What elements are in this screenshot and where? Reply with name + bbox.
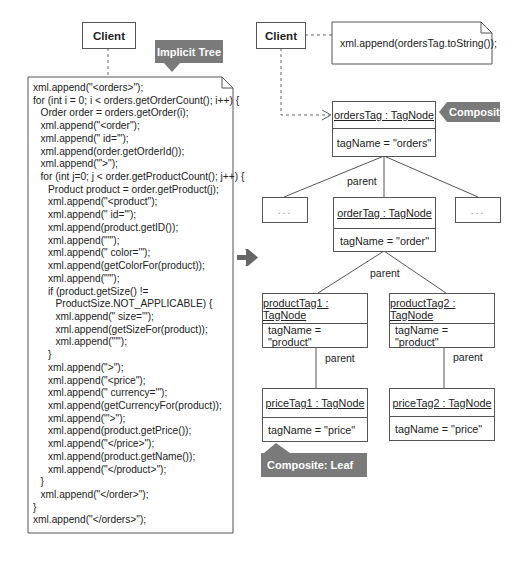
code-line: xml.append(product.getID()); — [48, 222, 178, 235]
node-name: priceTag2 : TagNode — [393, 397, 492, 409]
node-name: productTag1 : TagNode — [263, 297, 367, 321]
composite-leaf-callout: Composite: Leaf — [261, 453, 367, 477]
edge-label-parent: parent — [347, 175, 377, 187]
code-line: } — [33, 502, 36, 515]
code-line: xml.append(">"); — [48, 362, 123, 375]
node-attr: tagName = "product" — [263, 324, 367, 348]
ellipsis-text: ... — [471, 205, 485, 216]
code-line: Product product = order.getProduct(j); — [48, 184, 219, 197]
edge-label-parent: parent — [370, 267, 400, 279]
code-line: ProductSize.NOT_APPLICABLE) { — [56, 298, 213, 311]
code-line: for (int j=0; j < order.getProductCount(… — [41, 171, 245, 184]
code-line: xml.append(product.getName()); — [48, 451, 195, 464]
code-line: Order order = orders.getOrder(i); — [41, 107, 189, 120]
edge-label-parent: parent — [325, 352, 355, 364]
sibling-placeholder-left: ... — [262, 197, 308, 223]
transform-arrow-icon — [237, 249, 258, 266]
implicit-tree-callout: Implicit Tree — [155, 40, 223, 63]
code-line: xml.append("'"); — [48, 235, 119, 248]
edge-label-parent: parent — [453, 351, 483, 363]
code-line: xml.append(" id='"); — [48, 209, 136, 222]
node-name: productTag2 : TagNode — [390, 297, 494, 321]
node-attr: tagName = "order" — [334, 229, 435, 252]
node-name: priceTag1 : TagNode — [266, 397, 365, 409]
ellipsis-text: ... — [278, 205, 292, 216]
code-line: xml.append("</price>"); — [48, 438, 154, 451]
node-product-tag-1: productTag1 : TagNode tagName = "product… — [262, 293, 368, 348]
composite-callout: Composite — [447, 102, 500, 122]
code-line: xml.append("</order>"); — [41, 489, 149, 502]
node-name: ordersTag : TagNode — [334, 109, 434, 121]
code-line: xml.append(getCurrencyFor(product)); — [48, 400, 222, 413]
left-client-label: Client — [93, 30, 125, 42]
code-line: xml.append("</product>"); — [48, 464, 166, 477]
code-line: for (int i = 0; i < orders.getOrderCount… — [33, 95, 239, 108]
code-line: xml.append(" color='"); — [48, 247, 150, 260]
left-client-box: Client — [82, 22, 136, 49]
node-name: orderTag : TagNode — [337, 207, 432, 219]
code-line: xml.append("</orders>"); — [33, 514, 146, 527]
code-line: xml.append(getSizeFor(product)); — [56, 324, 208, 337]
code-line: xml.append("'>"); — [48, 413, 125, 426]
code-line: xml.append("<price"); — [48, 375, 146, 388]
node-price-tag-1: priceTag1 : TagNode tagName = "price" — [262, 388, 368, 442]
right-client-label: Client — [265, 30, 297, 42]
node-orders-tag: ordersTag : TagNode tagName = "orders" — [332, 101, 436, 157]
node-order-tag: orderTag : TagNode tagName = "order" — [333, 197, 436, 252]
code-line: xml.append("'"); — [48, 273, 119, 286]
code-line: xml.append(" id='"); — [41, 133, 129, 146]
composite-label: Composite — [449, 106, 506, 118]
code-line: xml.append("'>"); — [41, 158, 118, 171]
sibling-placeholder-right: ... — [455, 197, 501, 223]
composite-leaf-label: Composite: Leaf — [267, 459, 353, 471]
code-line: xml.append(" currency='"); — [48, 387, 167, 400]
client-note-text: xml.append(ordersTag.toString()); — [340, 37, 497, 49]
code-line: if (product.getSize() != — [48, 286, 149, 299]
code-line: xml.append("<product"); — [48, 196, 157, 209]
code-line: } — [41, 476, 44, 489]
code-line: xml.append(order.getOrderId()); — [41, 146, 185, 159]
code-line: } — [48, 349, 51, 362]
code-line: xml.append(getColorFor(product)); — [48, 260, 205, 273]
node-attr: tagName = "price" — [263, 418, 367, 442]
node-product-tag-2: productTag2 : TagNode tagName = "product… — [389, 293, 495, 348]
code-line: xml.append(" size='"); — [56, 311, 154, 324]
node-price-tag-2: priceTag2 : TagNode tagName = "price" — [389, 388, 495, 441]
code-line: xml.append("<orders>"); — [33, 82, 143, 95]
code-line: xml.append("'"); — [56, 336, 127, 349]
node-attr: tagName = "product" — [390, 324, 494, 348]
implicit-tree-label: Implicit Tree — [157, 46, 221, 58]
code-line: xml.append(product.getPrice()); — [48, 425, 191, 438]
node-attr: tagName = "orders" — [333, 129, 435, 156]
right-client-box: Client — [256, 22, 306, 49]
code-line: xml.append("<order"); — [41, 120, 140, 133]
node-attr: tagName = "price" — [390, 417, 494, 441]
